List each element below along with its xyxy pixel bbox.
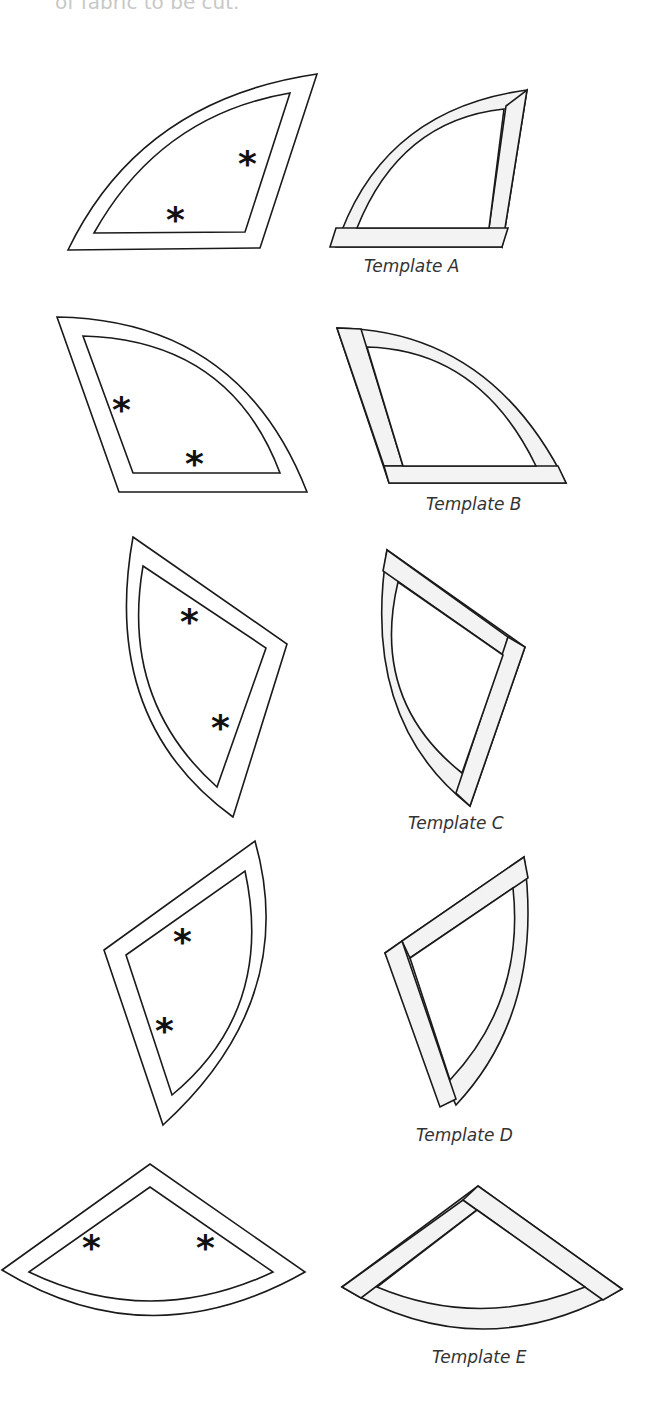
template-a-cut-shape: * *: [68, 74, 317, 250]
grain-star-icon: *: [238, 143, 257, 184]
template-b-pattern: [337, 328, 566, 483]
grain-star-icon: *: [155, 1010, 174, 1051]
template-d-pattern: [385, 857, 528, 1107]
grain-star-icon: *: [185, 443, 204, 484]
template-label-a: Template A: [364, 256, 459, 276]
grain-star-icon: *: [112, 389, 131, 430]
template-b-cut-shape: * *: [57, 317, 307, 492]
template-e-cut-shape: * *: [2, 1164, 305, 1316]
template-d-cut-shape: * *: [104, 841, 266, 1125]
grain-star-icon: *: [82, 1227, 101, 1268]
grain-star-icon: *: [211, 707, 230, 748]
template-label-b: Template B: [426, 494, 521, 514]
template-label-e: Template E: [432, 1347, 527, 1367]
template-e-pattern: [342, 1186, 622, 1329]
grain-star-icon: *: [166, 199, 185, 240]
template-a-pattern: [330, 90, 527, 247]
grain-star-icon: *: [180, 601, 199, 642]
template-c-pattern: [382, 550, 525, 806]
template-diagram: * * * * * * * *: [0, 0, 649, 1428]
template-label-d: Template D: [416, 1125, 513, 1145]
grain-star-icon: *: [173, 921, 192, 962]
template-c-cut-shape: * *: [126, 537, 287, 817]
grain-star-icon: *: [196, 1227, 215, 1268]
template-label-c: Template C: [408, 813, 504, 833]
